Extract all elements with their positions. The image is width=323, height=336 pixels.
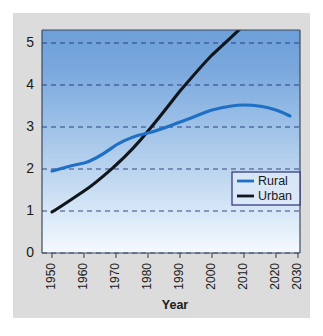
x-tick-label-1960: 1960 bbox=[76, 263, 90, 290]
x-tick-label-2010: 2010 bbox=[236, 263, 250, 290]
x-tick-label-2030: 2030 bbox=[290, 263, 304, 290]
y-tick-label-3: 3 bbox=[26, 118, 34, 134]
y-tick-label-4: 4 bbox=[26, 76, 34, 92]
x-tick-labels: 1950 1960 1970 1980 1990 2000 2010 2020 … bbox=[44, 263, 304, 290]
x-tick-label-1980: 1980 bbox=[140, 263, 154, 290]
x-tick-label-2000: 2000 bbox=[204, 263, 218, 290]
chart-legend: Rural Urban bbox=[232, 172, 300, 205]
y-tick-label-2: 2 bbox=[26, 160, 34, 176]
y-tick-label-0: 0 bbox=[26, 244, 34, 260]
plot-area-background bbox=[42, 30, 300, 253]
line-chart: 5 4 3 2 1 0 1950 1960 1970 1980 1990 200… bbox=[0, 0, 323, 336]
x-tick-label-1970: 1970 bbox=[108, 263, 122, 290]
chart-figure: 5 4 3 2 1 0 1950 1960 1970 1980 1990 200… bbox=[0, 0, 323, 336]
legend-label-rural: Rural bbox=[258, 174, 288, 188]
y-tick-label-5: 5 bbox=[26, 34, 34, 50]
x-tick-label-2020: 2020 bbox=[268, 263, 282, 290]
x-tick-label-1990: 1990 bbox=[172, 263, 186, 290]
y-tick-labels: 5 4 3 2 1 0 bbox=[26, 34, 34, 260]
x-tick-label-1950: 1950 bbox=[44, 263, 58, 290]
x-tick-marks bbox=[52, 253, 298, 258]
y-tick-label-1: 1 bbox=[26, 202, 34, 218]
legend-label-urban: Urban bbox=[258, 189, 292, 203]
x-axis-title: Year bbox=[162, 298, 189, 312]
